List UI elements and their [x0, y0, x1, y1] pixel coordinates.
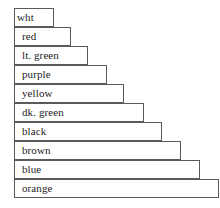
bar-row[interactable]: orange — [14, 179, 219, 198]
bar-row[interactable]: black — [14, 122, 162, 141]
bar-label: red — [15, 31, 36, 42]
bar-row[interactable]: brown — [14, 141, 181, 160]
bar-label: dk. green — [15, 107, 64, 118]
bar-label: orange — [15, 183, 53, 194]
bar-row[interactable]: yellow — [14, 84, 124, 103]
bar-label: yellow — [15, 88, 53, 99]
bar-label: lt. green — [15, 50, 59, 61]
bar-row[interactable]: lt. green — [14, 46, 88, 65]
bar-label: blue — [15, 164, 41, 175]
step-bar-chart: wht red lt. green purple yellow dk. gree… — [0, 0, 220, 208]
bar-row[interactable]: red — [14, 27, 71, 46]
bar-row[interactable]: dk. green — [14, 103, 144, 122]
bar-row[interactable]: purple — [14, 65, 107, 84]
bar-label: brown — [15, 145, 51, 156]
bar-label: wht — [15, 12, 34, 23]
bar-row[interactable]: wht — [14, 8, 54, 27]
bar-row[interactable]: blue — [14, 160, 200, 179]
bar-label: black — [15, 126, 46, 137]
bar-label: purple — [15, 69, 51, 80]
